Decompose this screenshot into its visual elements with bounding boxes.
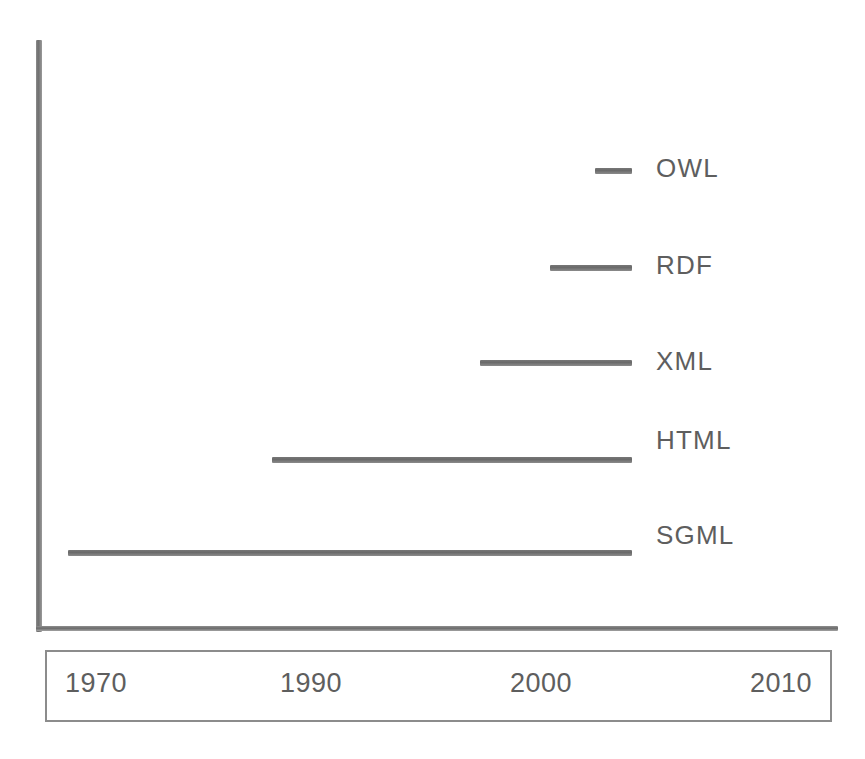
x-axis-tick-box: 1970 1990 2000 2010 — [45, 650, 832, 722]
bar-owl — [595, 168, 632, 174]
series-label-xml: XML — [656, 348, 713, 374]
bar-html — [272, 457, 632, 463]
timeline-chart: OWL RDF XML HTML SGML 1970 1990 2000 201… — [0, 0, 865, 759]
tick-label-2000: 2000 — [510, 670, 572, 697]
bar-xml — [480, 360, 632, 366]
tick-label-1990: 1990 — [280, 670, 342, 697]
bar-sgml — [68, 550, 632, 556]
bar-rdf — [550, 265, 632, 271]
series-label-owl: OWL — [656, 155, 719, 181]
series-label-sgml: SGML — [656, 522, 734, 548]
tick-label-2010: 2010 — [750, 670, 812, 697]
series-label-rdf: RDF — [656, 252, 713, 278]
x-axis-line — [36, 626, 838, 631]
series-label-html: HTML — [656, 427, 732, 453]
tick-label-1970: 1970 — [65, 670, 127, 697]
y-axis-line — [36, 40, 42, 632]
